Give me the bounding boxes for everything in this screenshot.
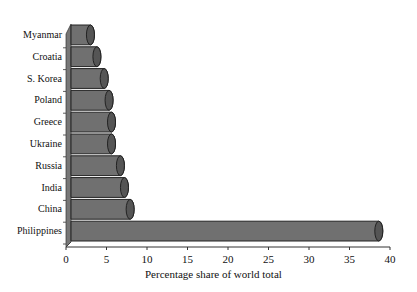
bar — [71, 178, 128, 198]
bar-cap — [120, 178, 128, 198]
x-tick-label: 30 — [299, 253, 319, 265]
bar-cap — [105, 90, 113, 110]
x-tick-label: 25 — [259, 253, 279, 265]
plot-area — [0, 0, 417, 292]
bar-cap — [116, 156, 124, 176]
bar — [71, 221, 383, 241]
x-axis-title: Percentage share of world total — [145, 268, 282, 280]
bar-cap — [375, 221, 383, 241]
category-label: Russia — [2, 160, 62, 171]
x-tick-label: 0 — [56, 253, 76, 265]
bar-cap — [100, 69, 108, 89]
x-tick-label: 10 — [137, 253, 157, 265]
bar-cap — [108, 134, 116, 154]
x-tick-label: 15 — [178, 253, 198, 265]
category-label: Croatia — [2, 51, 62, 62]
category-label: S. Korea — [2, 73, 62, 84]
x-tick-label: 35 — [340, 253, 360, 265]
bar-cap — [126, 199, 134, 219]
x-tick-label: 5 — [97, 253, 117, 265]
bar-cap — [93, 47, 101, 67]
x-tick-label: 40 — [380, 253, 400, 265]
bar — [71, 199, 134, 219]
chart: PhilippinesChinaIndiaRussiaUkraineGreece… — [0, 0, 417, 292]
category-label: Poland — [2, 94, 62, 105]
axis-wall — [66, 24, 71, 247]
category-label: India — [2, 182, 62, 193]
category-label: China — [2, 203, 62, 214]
bar-cap — [108, 112, 116, 132]
category-label: Myanmar — [2, 29, 62, 40]
bar-cap — [86, 25, 94, 45]
x-tick-label: 20 — [218, 253, 238, 265]
category-label: Greece — [2, 116, 62, 127]
category-label: Philippines — [2, 225, 62, 236]
category-label: Ukraine — [2, 138, 62, 149]
